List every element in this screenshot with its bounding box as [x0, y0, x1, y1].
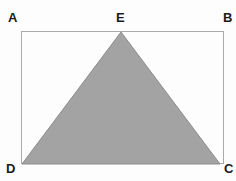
vertex-label-d: D	[6, 162, 15, 175]
vertex-label-e: E	[116, 11, 125, 24]
triangle-dec	[22, 32, 220, 164]
vertex-label-a: A	[8, 11, 17, 24]
figure-canvas	[0, 0, 236, 181]
vertex-label-c: C	[224, 162, 233, 175]
vertex-label-b: B	[223, 11, 232, 24]
geometry-figure: A B E D C	[0, 0, 236, 181]
